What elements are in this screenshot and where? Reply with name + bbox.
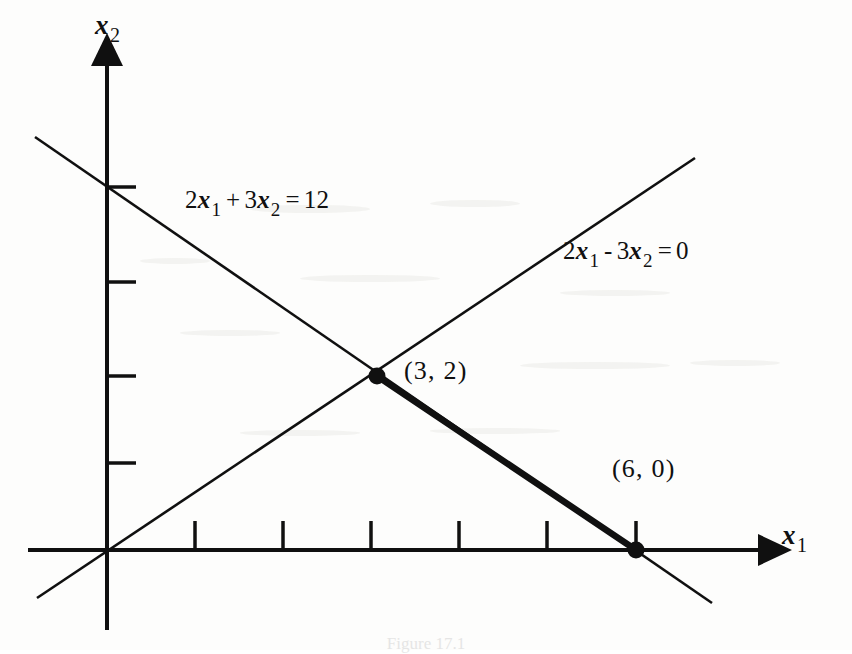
- highlighted-segment: [377, 376, 636, 550]
- eq2-coef2: 3: [617, 237, 630, 264]
- eq1-sub1: 1: [211, 199, 221, 220]
- line-2x1-minus-3x2-eq-0: [37, 158, 695, 598]
- eq1-sub2: 2: [271, 199, 281, 220]
- eq2-coef1: 2: [563, 237, 576, 264]
- equation-label-2: 2x1-3x2=0: [563, 238, 689, 270]
- point-marker-3-2: [369, 368, 386, 385]
- axis-group: [28, 33, 792, 630]
- eq2-rhs: 0: [676, 237, 689, 264]
- eq2-var2: x: [629, 237, 642, 264]
- eq1-rhs: 12: [304, 186, 329, 213]
- x-axis-label-subscript: 1: [797, 534, 807, 556]
- point-label-x-intercept: (6, 0): [612, 456, 676, 482]
- eq1-operator: +: [226, 186, 240, 213]
- x-axis-ticks: [195, 521, 636, 550]
- eq2-sub2: 2: [643, 250, 653, 271]
- eq1-var2: x: [257, 186, 270, 213]
- x-axis-label-name: x: [782, 520, 796, 550]
- eq2-operator: -: [604, 237, 613, 264]
- eq2-var1: x: [576, 237, 589, 264]
- y-axis-ticks: [107, 187, 136, 463]
- eq1-equals: =: [286, 186, 300, 213]
- y-axis-label-name: x: [95, 10, 109, 40]
- eq1-coef1: 2: [185, 186, 198, 213]
- eq1-var1: x: [198, 186, 211, 213]
- eq1-coef2: 3: [244, 186, 257, 213]
- figure-caption: Figure 17.1: [0, 634, 852, 654]
- equation-label-1: 2x1+3x2=12: [185, 187, 329, 219]
- y-axis-label-subscript: 2: [110, 24, 120, 46]
- eq2-sub1: 1: [589, 250, 599, 271]
- point-marker-6-0: [628, 542, 645, 559]
- x-axis-label: x1: [782, 522, 807, 555]
- eq2-equals: =: [658, 237, 672, 264]
- point-label-intersection: (3, 2): [404, 358, 468, 384]
- y-axis-label: x2: [95, 12, 120, 45]
